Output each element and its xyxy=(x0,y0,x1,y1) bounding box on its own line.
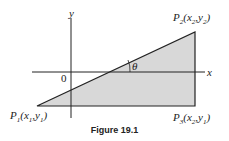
point-p1-label: P1(x1,y1) xyxy=(10,110,47,124)
figure-caption: Figure 19.1 xyxy=(0,125,229,135)
point-p2-label: P2(x2,y2) xyxy=(173,12,210,26)
shaded-triangle xyxy=(37,32,195,106)
y-axis-label: y xyxy=(69,8,74,19)
theta-label: θ xyxy=(132,61,137,72)
origin-label: 0 xyxy=(61,73,67,84)
x-axis-label: x xyxy=(207,67,212,78)
